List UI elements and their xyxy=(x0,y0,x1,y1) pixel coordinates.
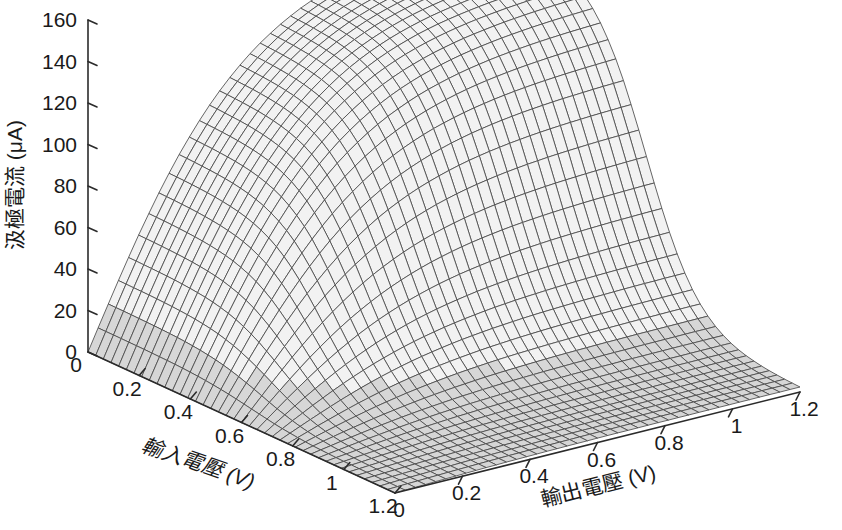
z-tick-label-1: 20 xyxy=(54,299,77,322)
z-tick-label-4: 80 xyxy=(54,174,77,197)
tick-mark xyxy=(88,228,97,232)
x-left-tick-label-0: 0 xyxy=(70,353,82,376)
z-tick-label-6: 120 xyxy=(42,91,77,114)
tick-mark xyxy=(88,311,97,315)
y-right-tick-label-6: 1.2 xyxy=(789,397,818,420)
tick-mark xyxy=(88,186,97,190)
y-right-tick-label-5: 1 xyxy=(731,414,743,437)
tick-mark xyxy=(88,20,97,24)
z-tick-label-8: 160 xyxy=(42,8,77,31)
drain-current-surface-plot: 02040608010012014016000.20.40.60.811.200… xyxy=(0,0,842,530)
x-left-tick-label-3: 0.6 xyxy=(215,424,244,447)
z-tick-label-5: 100 xyxy=(42,133,77,156)
z-tick-label-3: 60 xyxy=(54,216,77,239)
y-right-tick-label-2: 0.4 xyxy=(519,464,549,487)
x-left-tick-label-5: 1 xyxy=(326,471,338,494)
z-tick-label-7: 140 xyxy=(42,50,77,73)
x-left-tick-label-4: 0.8 xyxy=(266,447,295,470)
y-right-tick-label-4: 0.8 xyxy=(654,431,683,454)
z-axis-title: 汲極電流 (μA) xyxy=(3,120,26,250)
tick-mark xyxy=(88,145,97,149)
x-left-tick-label-2: 0.4 xyxy=(164,400,194,423)
y-right-tick-label-0: 0 xyxy=(393,498,405,521)
x-left-tick-label-1: 0.2 xyxy=(113,377,142,400)
tick-mark xyxy=(88,103,97,107)
z-tick-label-2: 40 xyxy=(54,257,77,280)
y-right-tick-label-1: 0.2 xyxy=(452,481,481,504)
tick-mark xyxy=(88,269,97,273)
tick-mark xyxy=(88,62,97,66)
y-right-tick-label-3: 0.6 xyxy=(587,448,616,471)
